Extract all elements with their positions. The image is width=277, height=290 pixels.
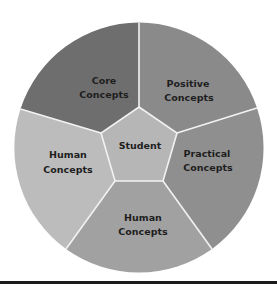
label-core-line1: Core <box>92 75 117 86</box>
label-human-left-line2: Concepts <box>43 164 93 175</box>
label-core-line2: Concepts <box>79 89 129 100</box>
label-positive-line2: Concepts <box>164 92 214 103</box>
label-human-left-line1: Human <box>49 149 87 160</box>
label-human-bottom-line2: Concepts <box>118 226 168 237</box>
label-positive-line1: Positive <box>167 78 210 89</box>
label-practical-line2: Concepts <box>183 162 233 173</box>
label-student: Student <box>119 140 162 151</box>
label-human-bottom-line1: Human <box>124 212 162 223</box>
label-practical-line1: Practical <box>184 148 231 159</box>
bottom-rule-divider <box>0 281 277 284</box>
student-concepts-diagram: Core Concepts Positive Concepts Student … <box>0 0 277 290</box>
